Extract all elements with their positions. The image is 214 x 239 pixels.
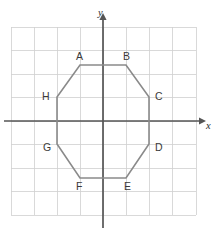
vertex-label-g: G <box>43 141 51 153</box>
vertex-label-c: C <box>155 90 163 102</box>
figure-canvas: ABCDEFGH x y <box>0 0 214 239</box>
y-axis-label: y <box>97 7 103 18</box>
vertex-label-b: B <box>123 50 130 62</box>
x-axis-arrow-icon <box>199 117 206 124</box>
vertex-label-e: E <box>124 180 131 192</box>
x-axis-label: x <box>205 120 211 131</box>
octagon-figure: ABCDEFGH x y <box>0 0 214 239</box>
vertex-label-d: D <box>155 141 163 153</box>
vertex-label-h: H <box>42 90 50 102</box>
vertex-label-a: A <box>76 50 83 62</box>
vertex-label-f: F <box>76 180 82 192</box>
